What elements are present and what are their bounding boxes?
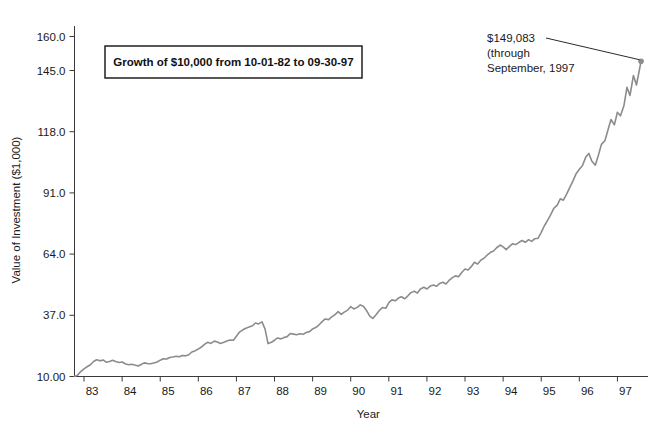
x-tick-label: 89 [314, 385, 327, 397]
y-tick-label: 10.00 [37, 371, 66, 383]
y-tick-label: 118.0 [38, 126, 66, 138]
x-tick-label: 92 [429, 385, 442, 397]
chart-title-box: Growth of $10,000 from 10-01-82 to 09-30… [105, 46, 362, 78]
annotation-line-1: $149,083 [487, 32, 535, 44]
final-value-annotation: $149,083 (through September, 1997 [487, 32, 575, 74]
x-tick-label: 84 [124, 385, 137, 397]
x-tick-label: 93 [467, 385, 480, 397]
x-tick-label: 88 [276, 385, 289, 397]
annotation-leader-line [546, 38, 640, 60]
annotation-line-3: September, 1997 [487, 62, 575, 74]
y-tick-label: 91.0 [43, 187, 65, 199]
annotation-line-2: (through [487, 47, 530, 59]
x-tick-label: 95 [543, 385, 556, 397]
title-box-label: Growth of $10,000 from 10-01-82 to 09-30… [113, 56, 353, 68]
x-tick-label: 87 [238, 385, 251, 397]
x-axis-tick-labels: 838485868788899091929394959697 [86, 385, 632, 397]
x-tick-label: 94 [505, 385, 518, 397]
y-axis-ticks [70, 37, 75, 377]
y-tick-label: 160.0 [37, 31, 66, 43]
x-tick-label: 96 [581, 385, 594, 397]
x-axis-title: Year [357, 408, 380, 420]
plot-axes [70, 26, 649, 382]
x-tick-label: 90 [352, 385, 365, 397]
y-axis-title: Value of Investment ($1,000) [10, 136, 22, 283]
x-tick-label: 86 [200, 385, 213, 397]
x-tick-label: 83 [86, 385, 99, 397]
x-tick-label: 91 [390, 385, 403, 397]
y-tick-label: 145.0 [37, 65, 66, 77]
investment-value-line [75, 61, 642, 376]
x-axis-ticks [84, 377, 617, 382]
growth-of-investment-line-chart: 10.0037.064.091.0118.0145.0160.0 8384858… [0, 0, 656, 424]
x-tick-label: 85 [162, 385, 175, 397]
y-tick-label: 37.0 [43, 309, 65, 321]
y-tick-label: 64.0 [43, 248, 65, 260]
chart-figure: 10.0037.064.091.0118.0145.0160.0 8384858… [0, 0, 656, 424]
x-tick-label: 97 [619, 385, 632, 397]
y-axis-tick-labels: 10.0037.064.091.0118.0145.0160.0 [37, 31, 66, 383]
